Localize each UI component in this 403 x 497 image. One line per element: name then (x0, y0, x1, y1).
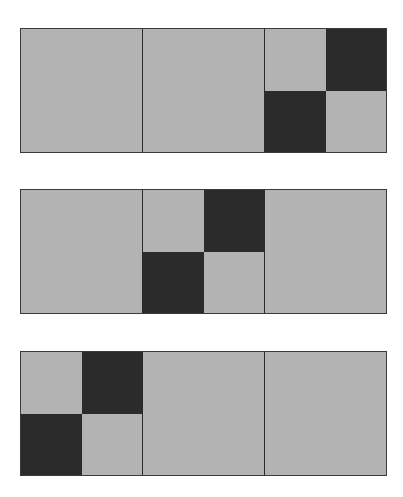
checker-top-right (82, 352, 143, 414)
checker-top-left (143, 190, 204, 252)
checker-top-right (204, 190, 265, 252)
checker-bottom-left (265, 91, 326, 153)
strip-2-cell-1 (21, 190, 143, 313)
strip-2-cell-2-checker (143, 190, 265, 313)
checker-top-left (21, 352, 82, 414)
checker-bottom-left (143, 252, 204, 314)
strip-1 (20, 28, 387, 153)
strip-3 (20, 351, 387, 476)
strip-1-cell-1 (21, 29, 143, 152)
checker-bottom-right (326, 91, 387, 153)
strip-3-cell-2 (143, 352, 265, 475)
strip-1-cell-3-checker (265, 29, 386, 152)
strip-3-cell-3 (265, 352, 386, 475)
checker-top-left (265, 29, 326, 91)
checker-bottom-right (82, 414, 143, 476)
strip-1-cell-2 (143, 29, 265, 152)
checker-top-right (326, 29, 387, 91)
strip-3-cell-1-checker (21, 352, 143, 475)
checker-bottom-left (21, 414, 82, 476)
strip-2-cell-3 (265, 190, 386, 313)
strip-2 (20, 189, 387, 314)
checker-bottom-right (204, 252, 265, 314)
